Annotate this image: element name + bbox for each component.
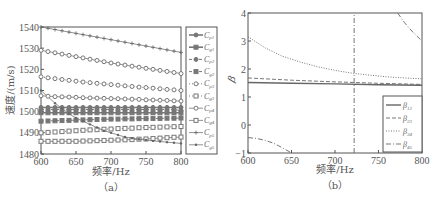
data-point xyxy=(75,117,77,119)
x-tick-label-a: 750 xyxy=(139,156,154,167)
data-point xyxy=(152,140,154,142)
data-point xyxy=(173,142,175,144)
data-point xyxy=(39,25,43,29)
data-point xyxy=(172,88,176,92)
data-point xyxy=(123,126,127,130)
data-point xyxy=(116,108,120,112)
data-point xyxy=(116,138,120,142)
data-point xyxy=(39,48,43,52)
data-point xyxy=(116,127,120,131)
data-point xyxy=(46,94,50,98)
data-point xyxy=(137,117,141,121)
data-point xyxy=(46,108,50,112)
data-point xyxy=(158,108,162,112)
data-point xyxy=(39,94,43,98)
data-point xyxy=(39,119,43,123)
data-point xyxy=(158,125,162,129)
data-point xyxy=(137,97,141,101)
data-point xyxy=(74,95,78,99)
data-point xyxy=(117,134,119,136)
series-c-g2 xyxy=(39,116,183,123)
data-point xyxy=(172,125,176,129)
x-tick-label-b: 600 xyxy=(241,155,256,166)
data-point xyxy=(74,129,78,133)
data-point xyxy=(123,63,127,67)
data-point xyxy=(123,84,127,88)
data-point xyxy=(39,108,43,112)
data-point xyxy=(165,108,169,112)
data-point xyxy=(137,108,141,112)
data-point xyxy=(95,117,99,121)
data-point xyxy=(53,119,57,123)
data-point xyxy=(158,136,162,140)
data-point xyxy=(46,50,50,54)
panel-label-b: （b） xyxy=(322,180,348,191)
y-tick-label-b: 0 xyxy=(241,120,246,131)
data-point xyxy=(53,77,57,81)
x-axis-label-a: 频率/Hz xyxy=(92,165,129,177)
data-point xyxy=(116,39,120,43)
data-point xyxy=(40,89,42,91)
series-c-p4-branch xyxy=(39,94,183,103)
data-point xyxy=(109,108,113,112)
data-point xyxy=(144,86,148,90)
data-point xyxy=(81,128,85,132)
data-point xyxy=(179,50,183,54)
series-line xyxy=(248,82,422,85)
data-point xyxy=(88,34,92,38)
data-point xyxy=(102,117,106,121)
data-point xyxy=(131,137,133,139)
data-point xyxy=(179,72,183,76)
legend-marker xyxy=(194,118,198,122)
data-point xyxy=(39,139,43,143)
x-axis-label-b: 频率/Hz xyxy=(316,163,353,175)
data-point xyxy=(158,98,162,102)
data-point xyxy=(145,139,147,141)
data-point xyxy=(179,116,183,120)
x-tick-label-b: 650 xyxy=(284,155,299,166)
data-point xyxy=(172,108,176,112)
y-tick-label-a: 1490 xyxy=(19,127,39,138)
data-point xyxy=(88,96,92,100)
data-point xyxy=(137,65,141,69)
series-group-a xyxy=(39,25,183,145)
data-point xyxy=(158,87,162,91)
data-point xyxy=(102,36,106,40)
data-point xyxy=(67,30,71,34)
data-point xyxy=(159,140,161,142)
data-point xyxy=(95,96,99,100)
y-tick-label-b: 3 xyxy=(241,36,246,47)
data-point xyxy=(81,108,85,112)
data-point xyxy=(116,83,120,87)
data-point xyxy=(151,98,155,102)
x-tick-label-a: 650 xyxy=(69,156,84,167)
data-point xyxy=(102,60,106,64)
data-point xyxy=(172,71,176,75)
data-point xyxy=(123,138,127,142)
data-point xyxy=(144,98,148,102)
data-point xyxy=(137,126,141,130)
data-point xyxy=(68,113,70,115)
data-point xyxy=(158,68,162,72)
data-point xyxy=(165,136,169,140)
data-point xyxy=(60,52,64,56)
data-point xyxy=(138,138,140,140)
data-point xyxy=(81,56,85,60)
y-tick-label-a: 1520 xyxy=(19,64,39,75)
data-point xyxy=(95,108,99,112)
data-point xyxy=(179,99,183,103)
data-point xyxy=(67,53,71,57)
data-point xyxy=(137,85,141,89)
data-point xyxy=(124,136,126,138)
data-point xyxy=(130,117,134,121)
data-point xyxy=(151,86,155,90)
data-point xyxy=(151,67,155,71)
data-point xyxy=(179,89,183,93)
data-point xyxy=(144,126,148,130)
data-point xyxy=(137,43,141,47)
data-point xyxy=(81,96,85,100)
data-point xyxy=(88,57,92,61)
data-point xyxy=(158,116,162,120)
data-point xyxy=(110,132,112,134)
data-point xyxy=(166,141,168,143)
